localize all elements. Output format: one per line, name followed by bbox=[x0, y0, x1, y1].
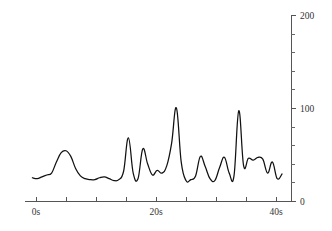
data-series-line bbox=[32, 108, 282, 182]
y-axis-tick-labels: 0100200 bbox=[300, 11, 315, 207]
x-tick-label: 40s bbox=[269, 207, 283, 217]
y-tick-label: 0 bbox=[300, 197, 305, 207]
x-axis-ticks bbox=[37, 197, 277, 201]
x-axis: 0s20s40s bbox=[25, 197, 291, 217]
x-tick-label: 20s bbox=[149, 207, 163, 217]
x-axis-tick-labels: 0s20s40s bbox=[32, 207, 283, 217]
y-tick-label: 200 bbox=[300, 11, 315, 21]
y-tick-label: 100 bbox=[300, 104, 315, 114]
line-chart: 0s20s40s 0100200 bbox=[0, 0, 332, 231]
y-axis: 0100200 bbox=[291, 11, 315, 207]
x-tick-label: 0s bbox=[32, 207, 41, 217]
chart-container: 0s20s40s 0100200 bbox=[0, 0, 332, 231]
